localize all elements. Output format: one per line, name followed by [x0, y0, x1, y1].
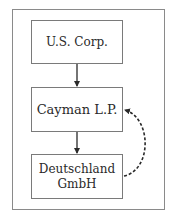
edges-layer	[0, 0, 175, 218]
dashed-arrow-deutschland-to-cayman	[124, 110, 145, 176]
